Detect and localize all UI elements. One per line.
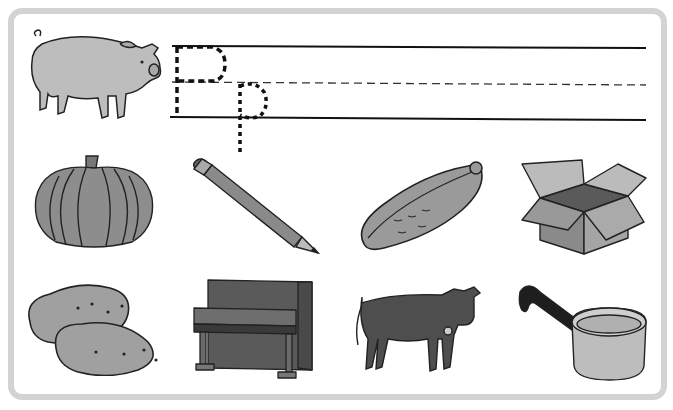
cow-picture[interactable] <box>356 283 488 383</box>
traced-letter-lowercase <box>240 84 266 155</box>
pickle-picture[interactable] <box>358 160 486 252</box>
tracing-lines <box>0 0 673 160</box>
pan-picture[interactable] <box>518 282 650 384</box>
pumpkin-picture[interactable] <box>34 154 154 250</box>
piano-picture[interactable] <box>192 278 316 382</box>
pencil-picture[interactable] <box>190 155 322 255</box>
potatoes-picture[interactable] <box>26 282 158 376</box>
box-picture[interactable] <box>520 158 650 256</box>
top-line <box>172 46 646 48</box>
